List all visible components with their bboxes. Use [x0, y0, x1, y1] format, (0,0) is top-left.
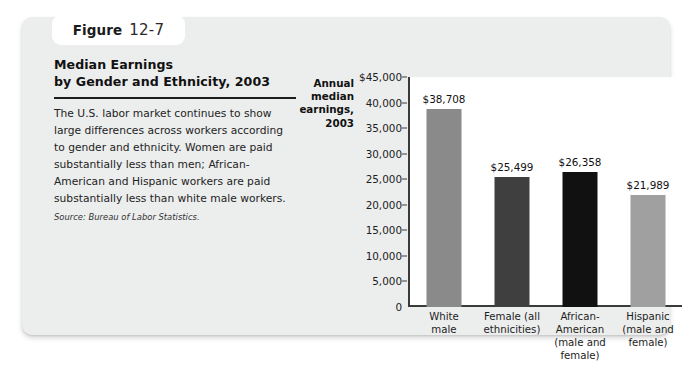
- bar-value-label: $21,989: [627, 179, 670, 191]
- y-axis-tick-label: 40,000: [354, 97, 402, 109]
- y-axis-tick-label: 30,000: [354, 148, 402, 160]
- figure-label: Figure: [73, 22, 123, 38]
- y-axis-tick-mark: [402, 77, 407, 78]
- bar-group: $25,499: [478, 77, 546, 307]
- y-axis-title: Annual median earnings, 2003: [298, 77, 354, 130]
- figure-title: Median Earnings by Gender and Ethnicity,…: [54, 57, 296, 90]
- bar-chart: Annual median earnings, 2003 $45,00040,0…: [298, 73, 672, 325]
- y-axis-tick-label: 20,000: [354, 199, 402, 211]
- figure-card: Figure 12-7 Median Earnings by Gender an…: [22, 17, 670, 335]
- y-axis-tick-mark: [402, 102, 407, 103]
- y-axis-tick-label: 0: [354, 301, 402, 313]
- bar: [427, 109, 462, 307]
- y-axis-tick-label: $45,000: [354, 71, 402, 83]
- figure-number: 12-7: [129, 21, 164, 39]
- y-axis-tick-label: 10,000: [354, 250, 402, 262]
- x-axis-category-label: Hispanic (male and female): [614, 311, 682, 350]
- y-axis-tick-mark: [402, 230, 407, 231]
- bar-group: $26,358: [546, 77, 614, 307]
- y-axis-tick-label: 15,000: [354, 224, 402, 236]
- y-axis-tick-label: 5,000: [354, 275, 402, 287]
- bars-layer: $38,708$25,499$26,358$21,989: [410, 77, 682, 307]
- y-axis-tick-mark: [402, 255, 407, 256]
- bar: [563, 172, 598, 307]
- y-axis-tick-mark: [402, 204, 407, 205]
- bar-group: $21,989: [614, 77, 682, 307]
- figure-description: The U.S. labor market continues to show …: [54, 106, 296, 207]
- y-axis-tick-labels: $45,00040,00035,00030,00025,00020,00015,…: [354, 73, 402, 313]
- bar: [631, 195, 666, 307]
- bar: [495, 177, 530, 307]
- bar-value-label: $25,499: [491, 161, 534, 173]
- caption-divider: [54, 97, 296, 99]
- x-axis-category-label: White male: [410, 311, 478, 337]
- figure-number-tab: Figure 12-7: [52, 15, 185, 45]
- y-axis-tick-mark: [402, 281, 407, 282]
- x-axis-category-label: African- American (male and female): [546, 311, 614, 363]
- bar-value-label: $38,708: [423, 93, 466, 105]
- figure-source: Source: Bureau of Labor Statistics.: [54, 212, 296, 222]
- y-axis-tick-mark: [402, 179, 407, 180]
- y-axis-tick-mark: [402, 128, 407, 129]
- x-axis-category-label: Female (all ethnicities): [478, 311, 546, 337]
- y-axis-tick-label: 35,000: [354, 122, 402, 134]
- y-axis-tick-label: 25,000: [354, 173, 402, 185]
- y-axis-tick-mark: [402, 153, 407, 154]
- caption-column: Median Earnings by Gender and Ethnicity,…: [54, 57, 296, 222]
- bar-group: $38,708: [410, 77, 478, 307]
- bar-value-label: $26,358: [559, 156, 602, 168]
